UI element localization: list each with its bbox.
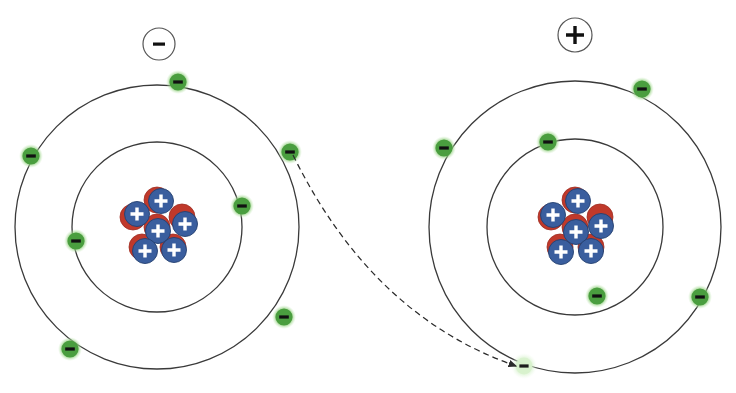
proton — [162, 238, 187, 263]
electron[interactable] — [278, 140, 302, 164]
charge-badge-negative — [143, 28, 175, 60]
proton — [125, 202, 150, 227]
atom-transfer-svg — [0, 0, 736, 393]
proton — [566, 189, 591, 214]
proton-cluster-right — [541, 189, 614, 265]
electron[interactable] — [688, 285, 712, 309]
electron[interactable] — [230, 194, 254, 218]
proton — [589, 214, 614, 239]
electron[interactable] — [585, 284, 609, 308]
proton — [173, 212, 198, 237]
proton — [541, 203, 566, 228]
proton — [149, 189, 174, 214]
electron[interactable] — [272, 305, 296, 329]
atom-left — [15, 70, 302, 369]
atom-right — [429, 77, 721, 379]
charge-badge-positive — [558, 18, 592, 52]
nucleus-left-atom — [120, 187, 198, 264]
electron[interactable] — [432, 136, 456, 160]
electron[interactable] — [19, 144, 43, 168]
electron-transfer-arrow — [293, 155, 516, 366]
proton — [579, 239, 604, 264]
nucleus-right-atom — [538, 187, 614, 265]
diagram-canvas — [0, 0, 736, 393]
proton — [549, 240, 574, 265]
proton — [133, 239, 158, 264]
electron[interactable] — [630, 77, 654, 101]
electron[interactable] — [64, 229, 88, 253]
electron[interactable] — [166, 70, 190, 94]
electron[interactable] — [58, 337, 82, 361]
electron[interactable] — [536, 130, 560, 154]
